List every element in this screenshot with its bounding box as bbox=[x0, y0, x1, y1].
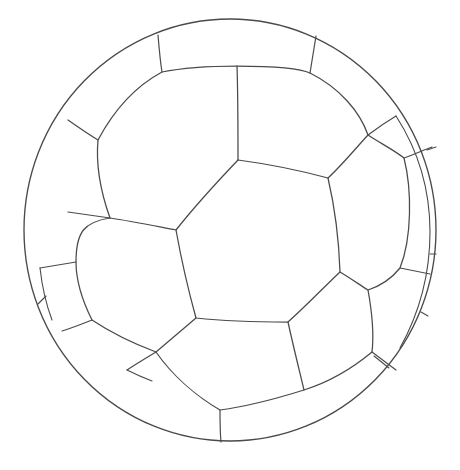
ball-outer-circle bbox=[24, 19, 436, 441]
soccer-ball-illustration bbox=[0, 0, 460, 470]
image-canvas: Soccer Ball Line Drawing soccer-ball bla… bbox=[0, 0, 460, 470]
right-rim-sliver-tick-lower bbox=[421, 312, 428, 316]
